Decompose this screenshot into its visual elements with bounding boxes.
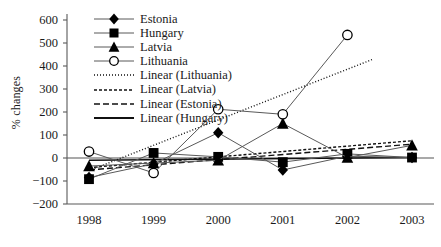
legend-long-dash-line [92, 97, 136, 111]
legend-item: Hungary [92, 26, 232, 40]
data-point-marker [343, 30, 352, 39]
legend-filled-diamond [92, 12, 136, 26]
data-point-marker [149, 168, 158, 177]
legend-filled-triangle [92, 40, 136, 54]
legend-item-label: Linear (Lithuania) [136, 68, 232, 82]
legend-dashed-line [92, 83, 136, 97]
legend-item-label: Linear (Latvia) [136, 82, 216, 96]
legend-solid-line [92, 111, 136, 125]
y-axis-tick-label: 0 [14, 152, 58, 165]
x-axis-tick-label: 1999 [124, 214, 184, 227]
x-axis-tick-label: 2002 [317, 214, 377, 227]
y-axis-tick-label: 300 [14, 83, 58, 96]
y-axis-tick-label: −100 [14, 175, 58, 188]
x-axis-tick-label: 2000 [188, 214, 248, 227]
data-point-marker [407, 153, 417, 163]
x-axis-tick-label: 2003 [382, 214, 441, 227]
legend-dotted-line [92, 68, 136, 82]
y-axis-tick-label: 400 [14, 60, 58, 73]
legend-item: Lithuania [92, 54, 232, 68]
data-point-marker [278, 110, 287, 119]
legend-item: Linear (Latvia) [92, 82, 232, 96]
y-axis-tick-label: 200 [14, 106, 58, 119]
legend-item-label: Linear (Hungary) [136, 111, 228, 125]
legend-item-label: Estonia [136, 12, 178, 26]
data-point-marker [84, 147, 93, 156]
x-axis-tick-label: 1998 [59, 214, 119, 227]
legend-item: Linear (Estonia) [92, 97, 232, 111]
y-axis-tick-label: −200 [14, 198, 58, 211]
y-axis-tick-label: 600 [14, 14, 58, 27]
legend-item-label: Hungary [136, 26, 184, 40]
x-axis-tick-label: 2001 [253, 214, 313, 227]
legend-filled-square [92, 26, 136, 40]
y-axis-tick-label: 500 [14, 37, 58, 50]
data-point-marker [149, 148, 159, 158]
legend-item: Linear (Lithuania) [92, 68, 232, 82]
data-point-marker [278, 157, 288, 167]
legend-item-label: Linear (Estonia) [136, 97, 222, 111]
legend-open-circle [92, 54, 136, 68]
legend-item-label: Latvia [136, 40, 172, 54]
chart-legend: EstoniaHungaryLatviaLithuaniaLinear (Lit… [92, 12, 232, 125]
data-point-marker [84, 174, 94, 184]
legend-item: Latvia [92, 40, 232, 54]
legend-item-label: Lithuania [136, 54, 188, 68]
legend-item: Estonia [92, 12, 232, 26]
chart-container: % changes EstoniaHungaryLatviaLithuaniaL… [0, 0, 441, 247]
trendline [89, 144, 412, 170]
data-point-marker [213, 127, 223, 139]
y-axis-tick-label: 100 [14, 129, 58, 142]
legend-item: Linear (Hungary) [92, 111, 232, 125]
